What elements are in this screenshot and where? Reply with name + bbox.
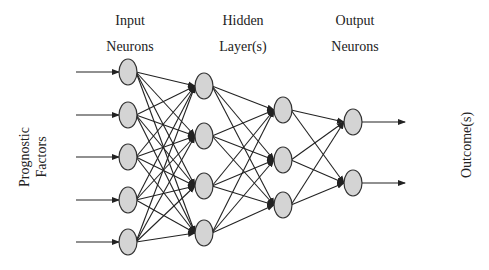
input-neuron-3 [119, 144, 137, 170]
hidden2-neuron-3 [274, 192, 292, 218]
input-neuron-2 [119, 102, 137, 128]
output-neuron-2 [344, 170, 362, 196]
hidden-layers-label-line1: Hidden [222, 13, 263, 28]
connection-hidden1-to-hidden2 [212, 186, 274, 205]
connection-hidden1-to-hidden2 [212, 110, 274, 186]
input-neuron-4 [119, 187, 137, 213]
outcomes-label: Outcome(s) [459, 112, 475, 178]
hidden-layers-label-line2: Layer(s) [219, 39, 267, 55]
connection-input-to-hidden1 [136, 86, 195, 200]
connection-hidden1-to-hidden2 [212, 86, 274, 205]
connection-input-to-hidden1 [136, 86, 195, 242]
hidden1-neuron-4 [195, 220, 213, 246]
connection-hidden2-to-output [291, 122, 344, 160]
connection-hidden1-to-hidden2 [212, 110, 274, 136]
connection-hidden1-to-hidden2 [212, 86, 274, 110]
input-neuron-5 [119, 229, 137, 255]
hidden1-neuron-2 [195, 123, 213, 149]
input-neurons-label-line2: Neurons [106, 39, 153, 54]
connection-input-to-hidden1 [136, 157, 195, 186]
prognostic-factors-label-line1: Prognostic [17, 127, 32, 187]
hidden1-neuron-3 [195, 173, 213, 199]
connection-hidden1-to-hidden2 [212, 205, 274, 233]
output-neuron-1 [344, 109, 362, 135]
input-neuron-1 [119, 59, 137, 85]
connection-hidden2-to-output [291, 183, 344, 205]
connection-hidden1-to-hidden2 [212, 160, 274, 186]
hidden2-neuron-1 [274, 97, 292, 123]
connection-input-to-hidden1 [136, 72, 195, 86]
prognostic-factors-label-line2: Factors [34, 136, 49, 177]
input-neurons-label-line1: Input [115, 13, 145, 28]
output-neurons-label-line2: Neurons [331, 39, 378, 54]
hidden1-neuron-1 [195, 73, 213, 99]
neural-network-diagram: Input Neurons Hidden Layer(s) Output Neu… [0, 0, 489, 270]
output-neurons-label-line1: Output [336, 13, 375, 28]
hidden2-neuron-2 [274, 147, 292, 173]
